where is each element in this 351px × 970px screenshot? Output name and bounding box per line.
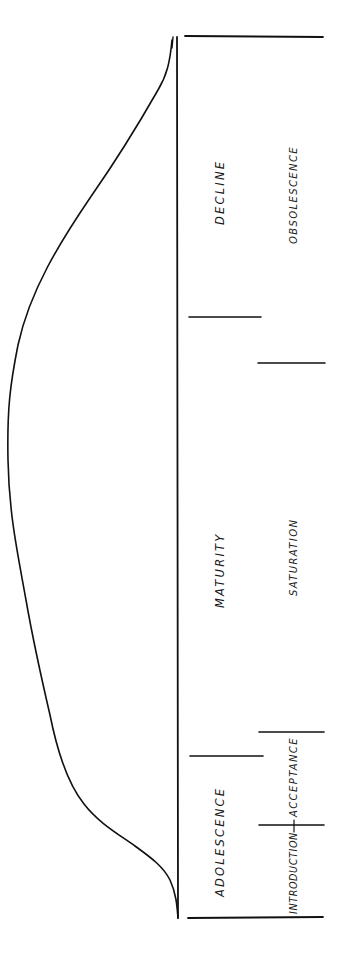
label-acceptance: ACCEPTANCE [288, 737, 299, 818]
label-introduction: INTRODUCTION [288, 832, 299, 914]
label-adolescence: ADOLESCENCE [213, 787, 227, 898]
product-life-cycle-diagram: DECLINE MATURITY ADOLESCENCE OBSOLESCENC… [0, 0, 351, 970]
curve-tail-line [172, 37, 173, 48]
label-maturity: MATURITY [213, 533, 227, 608]
sales-curve [8, 40, 178, 918]
label-decline: DECLINE [213, 160, 227, 225]
label-obsolescence: OBSOLESCENCE [288, 146, 299, 244]
label-saturation: SATURATION [288, 519, 299, 596]
time-axis [177, 37, 178, 918]
end-boundary-line [185, 36, 323, 37]
start-boundary-line [188, 917, 323, 918]
